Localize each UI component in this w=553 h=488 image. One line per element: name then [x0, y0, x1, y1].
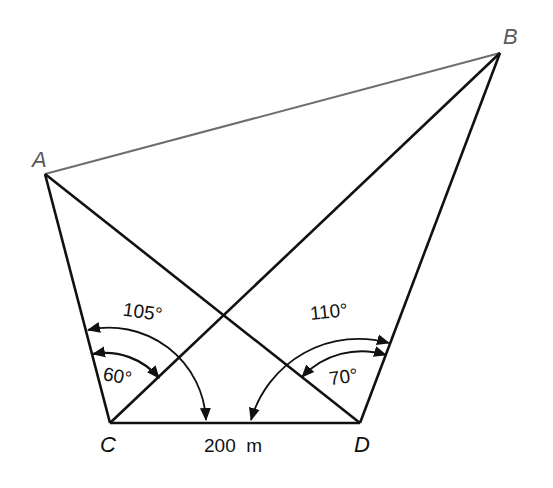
segment-bd	[360, 53, 500, 423]
angle-label-105: 105°	[122, 299, 164, 325]
surveying-diagram: A B C D 105° 60° 110° 70° 200 m	[0, 0, 553, 488]
baseline-distance-label: 200 m	[204, 435, 262, 456]
angle-label-60: 60°	[102, 363, 134, 389]
point-label-d: D	[354, 432, 370, 457]
angle-label-70: 70°	[328, 364, 359, 389]
angle-label-110: 110°	[309, 299, 349, 324]
point-label-b: B	[503, 24, 518, 49]
segment-bc	[110, 53, 500, 423]
segment-ab	[45, 53, 500, 174]
segment-ac	[45, 174, 110, 423]
segment-ad	[45, 174, 360, 423]
point-label-c: C	[100, 432, 116, 457]
point-label-a: A	[30, 147, 47, 172]
